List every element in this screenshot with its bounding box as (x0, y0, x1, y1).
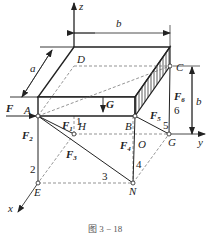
dimension-b-top: b (74, 17, 170, 47)
rod-number-3: 3 (102, 170, 108, 182)
x-axis: x (7, 134, 74, 214)
force-F-label: F (5, 102, 14, 114)
point-O-label: O (138, 138, 146, 150)
figure-caption: 图 3 − 18 (88, 224, 123, 234)
dim-b-label: b (116, 17, 122, 29)
joint-C (168, 64, 172, 68)
force-F3-label: F3 (65, 148, 77, 162)
rod-number-1: 1 (76, 115, 82, 127)
dim-b-right-label: b (196, 95, 202, 107)
statics-diagram: z b a b y (0, 0, 212, 235)
z-axis-label: z (78, 0, 84, 12)
point-D-label: D (76, 53, 85, 65)
plate (10, 47, 170, 116)
x-axis-label: x (7, 202, 13, 214)
rod-6 (169, 66, 170, 134)
force-F6-label: F6 (173, 90, 185, 104)
point-E-label: E (33, 186, 41, 198)
y-axis-label: y (197, 136, 203, 148)
rod-number-5: 5 (163, 119, 169, 131)
force-F1-label: F1 (61, 119, 73, 133)
force-F5-label: F5 (149, 109, 161, 123)
force-F2-label: F2 (21, 129, 33, 143)
point-C-label: C (176, 61, 184, 73)
joint-B (133, 114, 137, 118)
force-G-label: G (106, 98, 114, 110)
joint-A (36, 114, 40, 118)
point-B-label: B (125, 120, 132, 132)
force-F4-label: F4 (119, 139, 131, 153)
rod-number-2: 2 (30, 163, 36, 175)
joint-E (36, 181, 40, 185)
rod-number-4: 4 (136, 158, 142, 170)
rod-number-6: 6 (174, 104, 180, 116)
dim-a-label: a (30, 62, 36, 74)
point-N-label: N (128, 185, 137, 197)
point-G-label: G (168, 136, 176, 148)
point-A-label: A (23, 104, 31, 116)
